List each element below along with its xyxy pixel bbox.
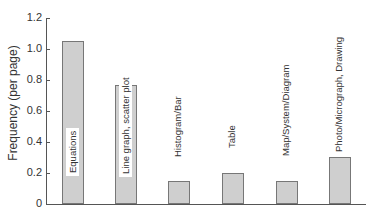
y-tick-label: 0.2 bbox=[12, 166, 42, 178]
y-tick-label: 1.2 bbox=[12, 11, 42, 23]
y-tick bbox=[46, 111, 50, 112]
bar-label: Line graph, scatter plot bbox=[119, 74, 132, 177]
bar-chart: Frequency (per page) 00.20.40.60.81.01.2… bbox=[0, 0, 375, 214]
y-tick bbox=[46, 142, 50, 143]
y-axis-label: Frequency (per page) bbox=[6, 38, 20, 168]
y-tick bbox=[46, 49, 50, 50]
y-tick-label: 0 bbox=[12, 197, 42, 209]
y-tick bbox=[46, 80, 50, 81]
y-tick-label: 0.8 bbox=[12, 73, 42, 85]
bar bbox=[222, 173, 244, 204]
x-axis-line bbox=[46, 204, 366, 205]
bar bbox=[62, 41, 84, 204]
y-tick bbox=[46, 173, 50, 174]
y-tick-label: 1.0 bbox=[12, 42, 42, 54]
bar bbox=[276, 181, 298, 204]
bar bbox=[168, 181, 190, 204]
y-tick-label: 0.4 bbox=[12, 135, 42, 147]
bar bbox=[329, 157, 351, 204]
bar-label: Histogram/Bar bbox=[172, 96, 183, 157]
bar-label: Equations bbox=[66, 128, 79, 176]
bar-label: Table bbox=[226, 125, 237, 148]
y-tick-label: 0.6 bbox=[12, 104, 42, 116]
y-tick bbox=[46, 18, 50, 19]
bar-label: Map/System/Diagram bbox=[280, 65, 291, 156]
y-tick bbox=[46, 204, 50, 205]
bar-label: Photo/Micrograph, Drawing bbox=[333, 37, 344, 152]
